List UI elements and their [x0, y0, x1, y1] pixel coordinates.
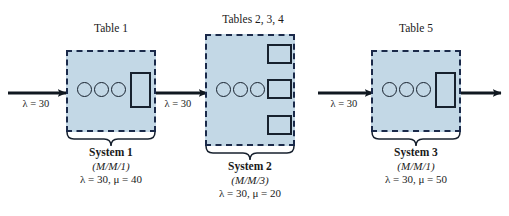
queue-circle — [250, 82, 265, 97]
entry-arrow-label: λ = 30 — [8, 98, 64, 110]
link-arrow-label-2: λ = 30 — [316, 98, 372, 110]
server-box — [130, 72, 151, 108]
queue-circle — [77, 82, 92, 97]
system-box-2 — [205, 34, 295, 146]
caption-notation-system-2: (M/M/3) — [200, 174, 300, 188]
brace-system-3 — [372, 132, 460, 146]
caption-notation-system-3: (M/M/1) — [366, 160, 466, 174]
brace-system-2 — [206, 146, 294, 160]
queue-circle — [216, 82, 231, 97]
table-label-system-2: Tables 2, 3, 4 — [195, 13, 311, 26]
caption-title-system-3: System 3 — [366, 146, 466, 160]
server-box — [267, 79, 292, 99]
caption-system-3: System 3 (M/M/1) λ = 30, μ = 50 — [366, 146, 466, 187]
caption-system-1: System 1 (M/M/1) λ = 30, μ = 40 — [61, 146, 161, 187]
server-box — [267, 44, 292, 64]
system-box-1 — [66, 50, 156, 132]
queue-circle — [416, 82, 431, 97]
caption-title-system-1: System 1 — [61, 146, 161, 160]
caption-rates-system-3: λ = 30, μ = 50 — [366, 173, 466, 187]
queue-circle — [111, 82, 126, 97]
queue-circle — [94, 82, 109, 97]
caption-rates-system-1: λ = 30, μ = 40 — [61, 173, 161, 187]
brace-system-1 — [67, 132, 155, 146]
queue-circle — [233, 82, 248, 97]
queue-circle — [382, 82, 397, 97]
server-box — [435, 72, 456, 108]
queue-circle — [399, 82, 414, 97]
link-arrow-label-1: λ = 30 — [150, 98, 206, 110]
server-box — [267, 115, 292, 135]
table-label-system-1: Table 1 — [66, 22, 156, 35]
caption-notation-system-1: (M/M/1) — [61, 160, 161, 174]
caption-system-2: System 2 (M/M/3) λ = 30, μ = 20 — [200, 160, 300, 201]
caption-title-system-2: System 2 — [200, 160, 300, 174]
table-label-system-3: Table 5 — [371, 22, 461, 35]
queueing-network-diagram: Table 1 λ = 30 System 1 (M/M/1) λ = 30, … — [0, 0, 509, 216]
caption-rates-system-2: λ = 30, μ = 20 — [200, 187, 300, 201]
system-box-3 — [371, 50, 461, 132]
